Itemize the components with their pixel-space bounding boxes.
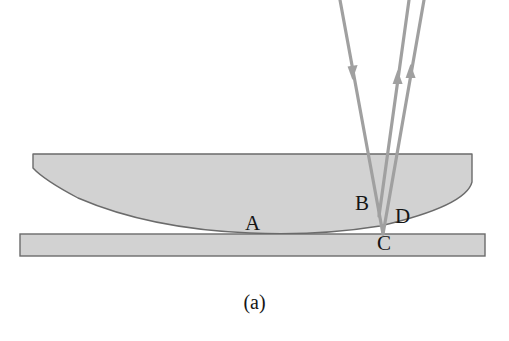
newtons-rings-figure: A B C D (a) bbox=[0, 0, 509, 341]
point-label-c: C bbox=[377, 233, 391, 254]
ray-diagram-canvas bbox=[0, 0, 509, 341]
figure-caption: (a) bbox=[0, 291, 509, 314]
point-label-a: A bbox=[245, 213, 260, 234]
incident-ray-arrowhead-icon bbox=[348, 65, 358, 80]
reflected-ray-from-C-arrowhead-icon bbox=[406, 64, 416, 78]
reflected-ray-from-B-arrowhead-icon bbox=[393, 70, 403, 84]
glass-plate bbox=[20, 234, 485, 256]
point-label-d: D bbox=[395, 206, 410, 227]
point-label-b: B bbox=[355, 193, 369, 214]
